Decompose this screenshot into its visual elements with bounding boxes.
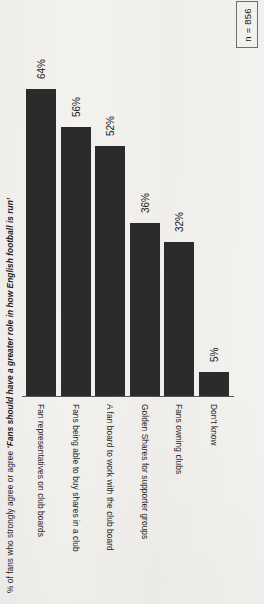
bar-value-label: 52% xyxy=(105,116,116,136)
category-label-slot: Fans being able to buy shares in a club xyxy=(61,402,91,600)
bar-slot: 36% xyxy=(130,60,160,396)
bar[interactable] xyxy=(26,89,56,396)
plot-area: 64%56%52%36%32%5% xyxy=(24,60,232,396)
chart-title-emphasis: ‘Fans should have a greater role in how … xyxy=(5,198,15,449)
bar[interactable] xyxy=(199,372,229,396)
bar-slot: 52% xyxy=(95,60,125,396)
bar-chart-figure: n = 856 % of fans who strongly agree or … xyxy=(0,0,264,604)
category-label: Golden Shares for supporter groups xyxy=(140,404,150,539)
category-axis-line xyxy=(22,396,234,397)
bar-slot: 5% xyxy=(199,60,229,396)
chart-title-prefix: % of fans who strongly agree or agree xyxy=(5,449,15,593)
category-label: Fans being able to buy shares in a club xyxy=(71,404,81,552)
bar-slot: 64% xyxy=(26,60,56,396)
bar-value-label: 32% xyxy=(174,212,185,232)
bar-slot: 32% xyxy=(164,60,194,396)
bar-value-label: 64% xyxy=(36,59,47,79)
bar-value-label: 56% xyxy=(70,97,81,117)
bar-value-label: 36% xyxy=(139,193,150,213)
sample-size-badge: n = 856 xyxy=(236,1,258,48)
bar[interactable] xyxy=(61,127,91,396)
sample-size-label: n = 856 xyxy=(242,8,253,41)
category-label-slot: Fans owning clubs xyxy=(164,402,194,600)
chart-title: % of fans who strongly agree or agree ‘F… xyxy=(3,88,17,593)
bar-value-label: 5% xyxy=(208,348,219,362)
bar[interactable] xyxy=(164,242,194,396)
category-label: Fans owning clubs xyxy=(174,404,184,474)
bar-slot: 56% xyxy=(61,60,91,396)
category-label: Fan representatives on club boards xyxy=(36,404,46,537)
category-label: Don't know xyxy=(209,404,219,446)
bar[interactable] xyxy=(95,146,125,396)
bar[interactable] xyxy=(130,223,160,396)
category-label-slot: A fan board to work with the club board xyxy=(95,402,125,600)
category-axis-labels: Fan representatives on club boardsFans b… xyxy=(24,402,232,600)
category-label-slot: Don't know xyxy=(199,402,229,600)
category-label: A fan board to work with the club board xyxy=(105,404,115,551)
category-label-slot: Golden Shares for supporter groups xyxy=(130,402,160,600)
category-label-slot: Fan representatives on club boards xyxy=(26,402,56,600)
